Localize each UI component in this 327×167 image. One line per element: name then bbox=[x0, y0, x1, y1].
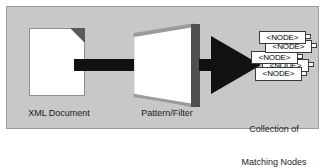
caption-matching-nodes-line1: Collection of bbox=[233, 124, 315, 135]
node-tab bbox=[309, 62, 314, 67]
node-tab bbox=[302, 71, 307, 76]
caption-pattern-filter: Pattern/Filter bbox=[127, 108, 207, 119]
diagram-panel: <NODE> <NODE> <NODE> <NODE> <NODE> XML D… bbox=[6, 6, 319, 129]
caption-xml-document: XML Document bbox=[21, 108, 97, 119]
diagram-figure: <NODE> <NODE> <NODE> <NODE> <NODE> XML D… bbox=[0, 0, 327, 136]
node-tab bbox=[312, 43, 317, 48]
node-tab bbox=[306, 34, 311, 39]
node-box: <NODE> bbox=[259, 31, 306, 44]
node-box: <NODE> bbox=[255, 67, 302, 81]
node-stack-icon: <NODE> <NODE> <NODE> <NODE> <NODE> bbox=[250, 31, 316, 87]
caption-matching-nodes: Collection of Matching Nodes bbox=[233, 102, 315, 136]
node-tab bbox=[298, 54, 303, 59]
filter-screen-icon bbox=[133, 25, 201, 107]
